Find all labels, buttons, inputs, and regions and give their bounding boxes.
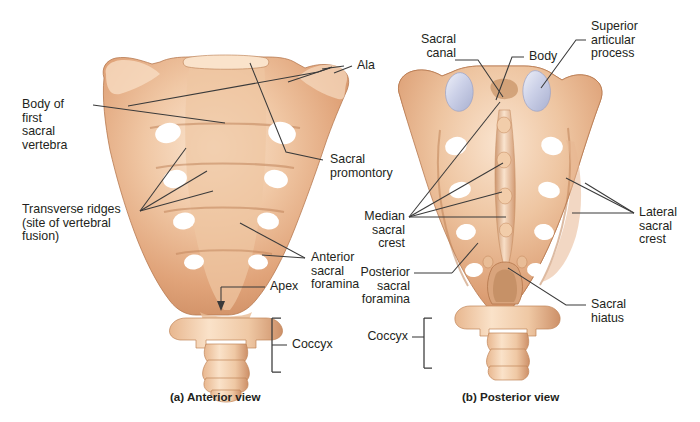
label-sacral-hiatus: Sacral hiatus (591, 298, 626, 325)
caption-posterior-view: (b) Posterior view (462, 390, 559, 403)
anatomical-figure: Body of first sacral vertebra Transverse… (0, 0, 700, 422)
caption-anterior-view: (a) Anterior view (170, 390, 260, 403)
posterior-sacrum (398, 66, 601, 324)
label-body: Body (529, 50, 557, 64)
label-apex: Apex (270, 280, 298, 294)
label-coccyx-anterior: Coccyx (292, 338, 333, 352)
label-coccyx-posterior: Coccyx (363, 330, 408, 344)
label-sacral-promontory: Sacral promontory (330, 153, 393, 180)
sacral-hiatus-mark (488, 262, 523, 304)
label-posterior-sacral-foramina: Posterior sacral foramina (357, 266, 410, 307)
label-sacral-canal: Sacral canal (408, 33, 456, 60)
label-anterior-sacral-foramina: Anterior sacral foramina (311, 251, 359, 292)
posterior-coccyx (455, 306, 560, 380)
label-lateral-sacral-crest: Lateral sacral crest (639, 206, 677, 247)
label-body-of-first-sacral-vertebra: Body of first sacral vertebra (22, 98, 67, 152)
label-ala: Ala (357, 59, 375, 73)
label-transverse-ridges: Transverse ridges (site of vertebral fus… (22, 203, 121, 244)
label-superior-articular-process: Superior articular process (591, 20, 638, 61)
label-median-sacral-crest: Median sacral crest (352, 210, 405, 251)
